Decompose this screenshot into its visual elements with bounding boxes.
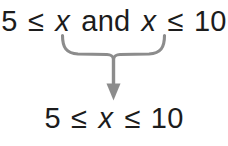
conjunction-word: and xyxy=(79,5,132,37)
right-relation-symbol: ≤ xyxy=(166,5,186,37)
inequality-figure: 5 ≤ x and x ≤ 10 5 ≤ x ≤ 10 xyxy=(0,0,228,146)
left-bound-number: 5 xyxy=(1,5,17,37)
left-relation-symbol: ≤ xyxy=(26,5,46,37)
underbrace-icon xyxy=(63,36,165,59)
lower-relation-symbol: ≤ xyxy=(69,102,89,134)
down-arrow-head xyxy=(107,84,121,101)
compound-inequality-expression: 5 ≤ x and x ≤ 10 xyxy=(0,5,228,38)
combined-variable: x xyxy=(97,102,114,134)
combined-inequality-expression: 5 ≤ x ≤ 10 xyxy=(0,102,228,135)
upper-relation-symbol: ≤ xyxy=(122,102,142,134)
right-variable: x xyxy=(141,5,158,37)
lower-bound-number: 5 xyxy=(44,102,60,134)
upper-bound-number: 10 xyxy=(151,102,184,134)
right-bound-number: 10 xyxy=(194,5,227,37)
left-variable: x xyxy=(54,5,71,37)
